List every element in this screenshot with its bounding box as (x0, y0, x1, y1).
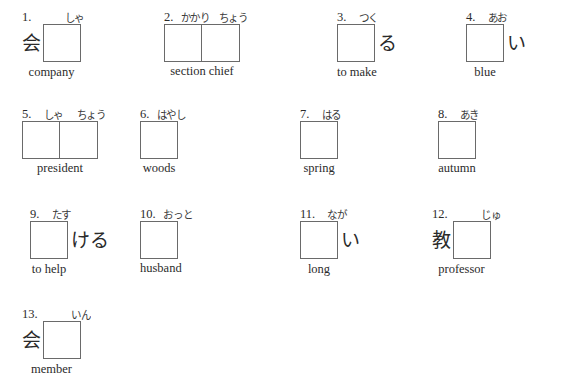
english-gloss: husband (140, 259, 178, 276)
furigana-row: じゅ (472, 209, 510, 221)
item-number: 1. (22, 11, 34, 24)
answer-box-group (466, 24, 504, 63)
item-answer-row (22, 121, 110, 159)
item-answer-row: 会 (22, 321, 100, 360)
answer-box[interactable] (22, 121, 60, 159)
item-answer-row (140, 121, 190, 159)
english-gloss: member (22, 360, 81, 377)
item-answer-row: い (466, 24, 526, 63)
answer-box[interactable] (140, 221, 178, 259)
english-gloss: blue (466, 63, 504, 80)
answer-box[interactable] (43, 321, 81, 359)
exercise-item: 2.かかりちょうsection chief (164, 8, 252, 79)
item-number: 12. (432, 208, 451, 221)
item-header: 3.つく (337, 8, 397, 24)
answer-box[interactable] (466, 24, 504, 62)
answer-box[interactable] (43, 24, 81, 62)
furigana-reading: たす (42, 209, 80, 222)
item-header: 10.おっと (140, 205, 197, 221)
english-gloss: company (22, 63, 81, 80)
furigana-reading: つく (349, 12, 387, 25)
exercise-item: 1.しゃ会company (22, 8, 93, 80)
furigana-reading: ちょう (72, 109, 110, 122)
furigana-reading: なが (318, 209, 356, 222)
furigana-row: なが (318, 209, 356, 221)
furigana-reading: はる (312, 109, 350, 122)
furigana-row: しゃちょう (34, 109, 110, 121)
english-gloss: to help (30, 260, 68, 277)
furigana-row: あき (450, 109, 488, 121)
item-number: 2. (164, 11, 176, 24)
english-gloss: to make (337, 63, 375, 80)
answer-box[interactable] (438, 121, 476, 159)
furigana-row: いん (62, 309, 100, 321)
furigana-reading: じゅ (472, 209, 510, 222)
item-number: 6. (140, 108, 152, 121)
furigana-reading: はやし (152, 109, 190, 122)
item-answer-row (164, 24, 252, 62)
answer-box[interactable] (202, 24, 240, 62)
exercise-item: 3.つくるto make (337, 8, 397, 80)
english-gloss: woods (140, 159, 178, 176)
answer-box[interactable] (30, 221, 68, 259)
item-answer-row: ける (30, 221, 109, 260)
item-header: 6.はやし (140, 105, 190, 121)
answer-box-group (337, 24, 375, 63)
answer-box[interactable] (300, 121, 338, 159)
item-header: 9.たす (30, 205, 109, 221)
item-header: 5.しゃちょう (22, 105, 110, 121)
item-number: 10. (140, 208, 159, 221)
furigana-row: あお (478, 12, 516, 24)
item-number: 3. (337, 11, 349, 24)
item-answer-row: い (300, 221, 360, 260)
answer-box[interactable] (140, 121, 178, 159)
exercise-item: 13.いん会member (22, 305, 100, 377)
item-number: 13. (22, 308, 41, 321)
suffix-kana: い (504, 24, 526, 63)
suffix-kana: い (338, 221, 360, 260)
item-header: 11.なが (300, 205, 360, 221)
item-number: 11. (300, 208, 318, 221)
item-header: 2.かかりちょう (164, 8, 252, 24)
item-header: 13.いん (22, 305, 100, 321)
exercise-item: 12.じゅ教professor (432, 205, 510, 277)
answer-box[interactable] (60, 121, 98, 159)
answer-box[interactable] (453, 221, 491, 259)
furigana-reading: あお (478, 12, 516, 25)
item-answer-row: 教 (432, 221, 510, 260)
answer-box-group (453, 221, 491, 260)
prefix-kanji: 会 (22, 321, 43, 360)
answer-box[interactable] (337, 24, 375, 62)
answer-box-group (140, 221, 178, 259)
furigana-reading: いん (62, 309, 100, 322)
answer-box-group (30, 221, 68, 260)
furigana-reading: しゃ (34, 109, 72, 122)
answer-box-group (300, 121, 338, 159)
item-number: 7. (300, 108, 312, 121)
answer-box[interactable] (164, 24, 202, 62)
furigana-row: しゃ (55, 12, 93, 24)
item-answer-row (140, 221, 197, 259)
prefix-kanji: 教 (432, 221, 453, 260)
furigana-reading: しゃ (55, 12, 93, 25)
item-answer-row (438, 121, 488, 159)
answer-box-group (164, 24, 240, 62)
furigana-row: はる (312, 109, 350, 121)
english-gloss: section chief (164, 62, 240, 79)
worksheet-page: 1.しゃ会company2.かかりちょうsection chief3.つくるto… (0, 0, 573, 383)
answer-box-group (43, 24, 81, 63)
furigana-reading: あき (450, 109, 488, 122)
suffix-kana: る (375, 24, 397, 63)
furigana-reading: おっと (159, 209, 197, 222)
prefix-kanji: 会 (22, 24, 43, 63)
exercise-item: 4.あおいblue (466, 8, 526, 80)
item-header: 7.はる (300, 105, 350, 121)
furigana-row: おっと (159, 209, 197, 221)
english-gloss: long (300, 260, 338, 277)
exercise-item: 10.おっとhusband (140, 205, 197, 276)
answer-box[interactable] (300, 221, 338, 259)
english-gloss: president (22, 159, 98, 176)
exercise-item: 9.たすけるto help (30, 205, 109, 277)
answer-box-group (300, 221, 338, 260)
answer-box-group (140, 121, 178, 159)
